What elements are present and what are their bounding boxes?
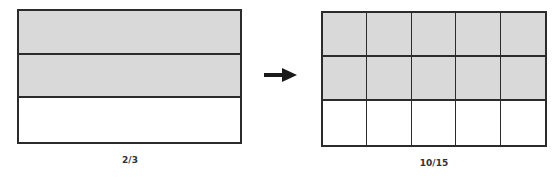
unshaded-cell xyxy=(367,101,411,145)
shaded-cell xyxy=(456,57,500,101)
shaded-cell xyxy=(412,13,456,57)
left-fraction-label: 2/3 xyxy=(90,155,170,165)
unshaded-cell xyxy=(456,101,500,145)
shaded-cell xyxy=(367,13,411,57)
unshaded-cell xyxy=(19,98,240,142)
fraction-ten-fifteenths-box xyxy=(321,11,547,147)
shaded-cell xyxy=(456,13,500,57)
right-arrow-icon xyxy=(264,68,298,82)
shaded-cell xyxy=(323,13,367,57)
right-grid xyxy=(323,13,545,145)
left-grid xyxy=(19,11,240,142)
right-fraction-label: 10/15 xyxy=(394,158,474,168)
shaded-cell xyxy=(412,57,456,101)
shaded-cell xyxy=(19,55,240,99)
fraction-two-thirds-box xyxy=(17,9,242,144)
shaded-cell xyxy=(501,57,545,101)
unshaded-cell xyxy=(501,101,545,145)
shaded-cell xyxy=(323,57,367,101)
shaded-cell xyxy=(19,11,240,55)
unshaded-cell xyxy=(323,101,367,145)
shaded-cell xyxy=(367,57,411,101)
unshaded-cell xyxy=(412,101,456,145)
shaded-cell xyxy=(501,13,545,57)
